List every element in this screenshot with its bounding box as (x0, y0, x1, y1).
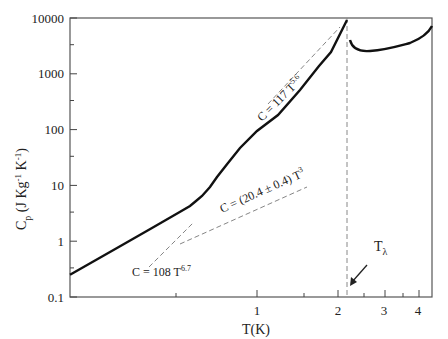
t-lambda-label: Tλ (374, 239, 388, 257)
fit-label-108T6.7: C = 108 T6.7 (132, 264, 191, 279)
x-tick-3: 3 (381, 303, 388, 318)
svg-text:Cp (J Kg-1 K-1): Cp (J Kg-1 K-1) (13, 148, 33, 230)
fit-lines (149, 27, 340, 267)
y-tick-1000: 1000 (38, 66, 64, 81)
heat-capacity-chart: 0.1 1 10 100 1000 10000 1 2 3 4 T(K) Cp … (0, 0, 448, 339)
x-tick-4: 4 (415, 303, 422, 318)
plot-frame (70, 18, 432, 297)
cp-curve-below-lambda (70, 20, 347, 275)
x-tick-2: 2 (335, 303, 342, 318)
y-axis-ticks (70, 18, 77, 297)
x-axis-title: T(K) (242, 322, 270, 338)
y-tick-1: 1 (58, 234, 65, 249)
y-axis-title: Cp (J Kg-1 K-1) (13, 148, 33, 230)
fit-label-117T5.6: C = 117 T5.6 (254, 72, 306, 124)
x-axis-ticks (176, 290, 419, 297)
x-tick-labels: 1 2 3 4 (254, 303, 422, 318)
y-tick-0.1: 0.1 (48, 290, 64, 305)
y-tick-labels: 0.1 1 10 100 1000 10000 (32, 11, 65, 305)
cp-curve-above-lambda (350, 26, 432, 51)
t-lambda-arrow-icon (350, 265, 367, 286)
y-tick-10000: 10000 (32, 11, 65, 26)
y-tick-100: 100 (45, 122, 65, 137)
fit-line-108T6.7 (149, 223, 193, 267)
x-tick-1: 1 (254, 303, 261, 318)
y-tick-10: 10 (51, 178, 64, 193)
fit-label-20.4T3: C = (20.4 ± 0.4) T3 (217, 165, 307, 216)
